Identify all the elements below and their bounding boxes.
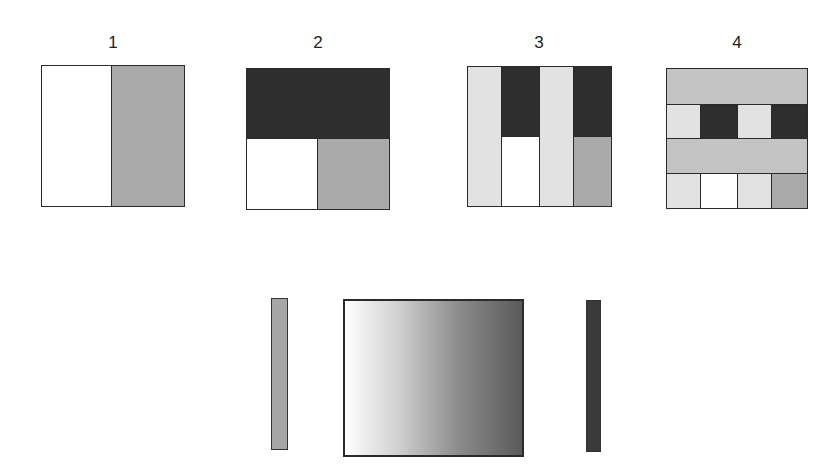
panel-2-dark-top [246,68,390,139]
panel-3-light-col-1 [467,66,502,207]
panel-3-dark-top-col-4 [573,66,612,137]
panel-1 [41,65,185,207]
panel-4-light-r2c1 [666,104,701,139]
gradient-square [343,299,524,457]
panel-4-band-row-3 [666,138,808,174]
panel-3-white-bottom-col-2 [501,136,540,207]
panel-3-dark-top-col-2 [501,66,540,137]
panel-3-label: 3 [519,33,559,53]
panel-3 [467,66,612,207]
panel-4-light-r4c1 [666,173,701,209]
panel-2-white-bottom [246,138,318,210]
panel-4-light-r4c3 [737,173,772,209]
panel-4-light-r2c3 [737,104,772,139]
left-gray-bar [271,298,288,450]
panel-1-white-half [41,65,112,207]
panel-3-gray-bottom-col-4 [573,136,612,207]
panel-4 [666,68,808,209]
panel-2-label: 2 [298,33,338,53]
panel-4-dark-r2c2 [700,104,738,139]
panel-4-label: 4 [717,33,757,53]
panel-4-white-r4c2 [700,173,738,209]
panel-1-gray-half [111,65,185,207]
panel-3-light-col-3 [539,66,574,207]
panel-2 [246,68,390,210]
panel-1-label: 1 [93,33,133,53]
right-dark-bar [586,300,601,452]
panel-4-gray-r4c4 [771,173,808,209]
panel-4-dark-r2c4 [771,104,808,139]
panel-4-band-row-1 [666,68,808,105]
panel-2-gray-bottom [317,138,390,210]
